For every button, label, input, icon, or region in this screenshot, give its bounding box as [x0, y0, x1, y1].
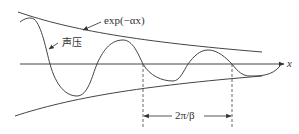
lower-envelope-curve: [15, 76, 262, 116]
damped-wave-diagram: [0, 0, 299, 134]
wavelength-label: 2π/β: [173, 110, 197, 121]
pressure-wave-curve: [20, 18, 280, 96]
pressure-leader-arrow: [49, 43, 58, 49]
pressure-label: 声压: [62, 38, 82, 48]
x-axis-label: x: [287, 58, 292, 69]
envelope-label: exp(−αx): [104, 15, 145, 26]
envelope-leader-arrow: [83, 22, 101, 30]
